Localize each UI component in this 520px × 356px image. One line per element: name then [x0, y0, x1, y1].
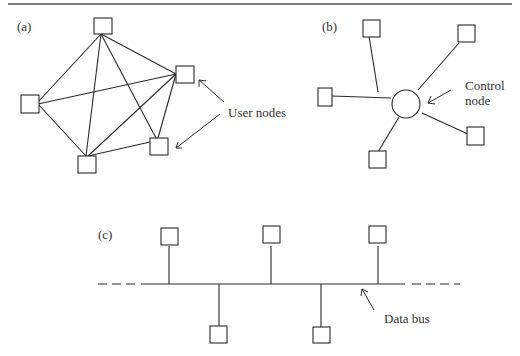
user-node	[458, 25, 475, 42]
control-node-arrow	[428, 90, 451, 104]
control-node-annotation-line1: Control	[465, 79, 505, 93]
data-bus-annotation: Data bus	[384, 312, 430, 326]
panel-a-label: (a)	[17, 20, 31, 34]
user-nodes-annotation: User nodes	[228, 106, 286, 120]
mesh-network	[21, 18, 194, 173]
network-topologies-diagram	[0, 0, 520, 356]
user-node	[78, 156, 96, 173]
user-nodes-arrows	[176, 80, 224, 148]
user-node	[363, 20, 380, 37]
control-node	[392, 90, 420, 118]
user-node	[21, 95, 39, 113]
data-bus-arrow	[361, 289, 374, 310]
user-node	[318, 88, 332, 106]
user-node	[369, 151, 386, 168]
user-node	[210, 326, 227, 343]
panel-b-label: (b)	[322, 20, 337, 34]
user-node	[150, 138, 168, 155]
user-node	[313, 327, 330, 343]
user-node	[94, 18, 112, 34]
star-network	[318, 20, 484, 168]
user-node	[263, 226, 280, 243]
user-node	[161, 228, 178, 245]
control-node-annotation-line2: node	[465, 94, 490, 108]
user-node	[176, 66, 194, 83]
user-node	[369, 226, 386, 243]
user-node	[467, 127, 484, 145]
panel-c-label: (c)	[98, 228, 112, 242]
